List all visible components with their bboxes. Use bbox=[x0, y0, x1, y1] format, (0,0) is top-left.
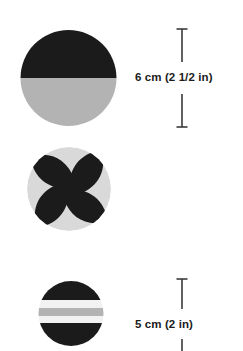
diagram-canvas: 6 cm (2 1/2 in) bbox=[0, 0, 243, 351]
size-label-large: 6 cm (2 1/2 in) bbox=[135, 71, 243, 83]
size-row-medium: 5 cm (2 in) bbox=[0, 130, 243, 250]
circle-small-stripe bbox=[38, 323, 104, 346]
size-row-small: 4 cm (1 1/2 in) bbox=[0, 250, 243, 351]
circle-medium-graphic bbox=[27, 147, 111, 231]
circle-small-stripe bbox=[38, 308, 104, 316]
circle-small-stripe bbox=[38, 300, 104, 308]
circle-small bbox=[38, 281, 104, 346]
circle-small-stripe bbox=[38, 281, 104, 300]
circle-small-graphic bbox=[38, 281, 104, 346]
circle-large-top-half bbox=[20, 30, 117, 78]
circle-large-graphic bbox=[20, 30, 117, 126]
circle-small-stripe bbox=[38, 316, 104, 323]
circle-large-bottom-half bbox=[20, 78, 117, 126]
circle-medium bbox=[27, 147, 111, 231]
size-row-large: 6 cm (2 1/2 in) bbox=[0, 0, 243, 130]
circle-large bbox=[20, 30, 117, 126]
